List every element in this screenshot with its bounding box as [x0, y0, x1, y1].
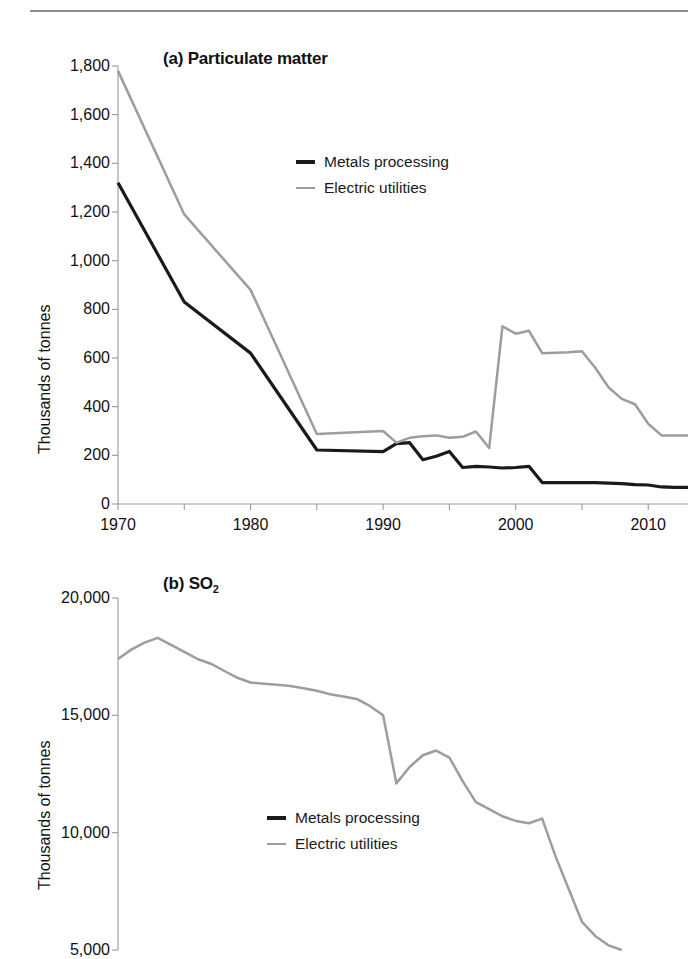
panel-a-xtick-2010: 2010	[630, 516, 666, 534]
panel-a-ytick-0: 0	[28, 495, 110, 513]
panel-b-ytick-15000: 15,000	[10, 706, 110, 724]
legend-swatch-metals-processing-b	[267, 816, 286, 819]
legend-item-electric-utilities-b: Electric utilities	[267, 831, 420, 857]
legend-label-electric-utilities-b: Electric utilities	[295, 835, 398, 853]
panel-a-xtick-2000: 2000	[498, 516, 534, 534]
legend-swatch-metals-processing	[296, 160, 315, 163]
panel-b-ytick-10000: 10,000	[10, 824, 110, 842]
panel-b-legend: Metals processing Electric utilities	[267, 805, 420, 857]
panel-a-plot	[0, 24, 693, 544]
panel-a-series-electric-utilities	[118, 71, 688, 448]
chart-panel-so2: (b) SO2 Thousands of tonnes 5,00010,0001…	[0, 560, 693, 903]
chart-panel-particulate-matter: (a) Particulate matter Thousands of tonn…	[0, 24, 693, 544]
legend-label-metals-processing-b: Metals processing	[295, 809, 420, 827]
panel-a-xtick-1990: 1990	[365, 516, 401, 534]
legend-label-metals-processing: Metals processing	[324, 153, 449, 171]
header-rule	[30, 10, 688, 12]
panel-a-ytick-1200: 1,200	[28, 203, 110, 221]
panel-b-ytick-5000: 5,000	[10, 941, 110, 959]
panel-b-ytick-20000: 20,000	[10, 589, 110, 607]
legend-item-electric-utilities: Electric utilities	[296, 175, 449, 201]
legend-item-metals-processing: Metals processing	[296, 149, 449, 175]
panel-a-ytick-1800: 1,800	[28, 57, 110, 75]
panel-a-ytick-1000: 1,000	[28, 252, 110, 270]
legend-swatch-electric-utilities	[296, 187, 315, 190]
panel-a-ytick-1400: 1,400	[28, 154, 110, 172]
panel-a-ytick-200: 200	[28, 446, 110, 464]
legend-item-metals-processing-b: Metals processing	[267, 805, 420, 831]
panel-a-series-metals-processing	[118, 183, 688, 488]
panel-a-ytick-1600: 1,600	[28, 106, 110, 124]
panel-a-ytick-400: 400	[28, 398, 110, 416]
panel-a-ytick-800: 800	[28, 300, 110, 318]
legend-swatch-electric-utilities-b	[267, 843, 286, 846]
panel-a-ytick-600: 600	[28, 349, 110, 367]
panel-a-xtick-1970: 1970	[100, 516, 136, 534]
legend-label-electric-utilities: Electric utilities	[324, 179, 427, 197]
panel-a-xtick-1980: 1980	[233, 516, 269, 534]
panel-a-legend: Metals processing Electric utilities	[296, 149, 449, 201]
panel-b-series-electric-utilities	[118, 638, 622, 950]
